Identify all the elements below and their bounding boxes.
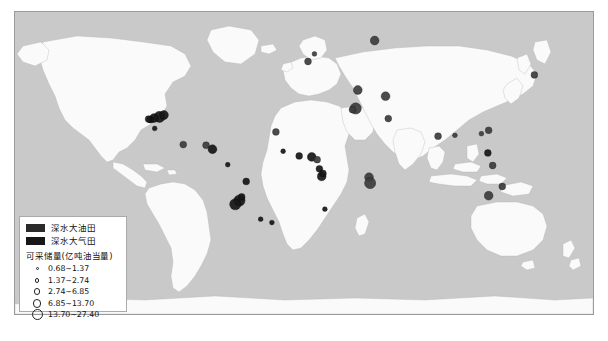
deepwater-field-point xyxy=(435,133,442,140)
reserve-class-row: 2.74~6.85 xyxy=(26,286,120,298)
reserve-class-row: 6.85~13.70 xyxy=(26,298,120,310)
deepwater-field-point xyxy=(484,191,493,200)
legend-row-gas: 深水大气田 xyxy=(26,235,120,247)
deepwater-field-point xyxy=(489,162,496,169)
reserve-class-label: 0.68~1.37 xyxy=(48,264,89,273)
deepwater-field-point xyxy=(258,217,263,222)
deepwater-field-point xyxy=(145,116,152,123)
deepwater-field-point xyxy=(365,178,376,189)
deepwater-field-point xyxy=(312,52,317,57)
map-legend: 深水大油田 深水大气田 可采储量(亿吨油当量) 0.68~1.371.37~2.… xyxy=(19,216,127,312)
deepwater-field-point xyxy=(385,115,392,122)
deepwater-field-point xyxy=(238,193,245,200)
deepwater-field-point xyxy=(322,207,327,212)
deepwater-field-point xyxy=(269,220,274,225)
deepwater-field-point xyxy=(273,129,280,136)
reserve-class-row: 1.37~2.74 xyxy=(26,275,120,287)
deepwater-field-point xyxy=(314,156,321,163)
reserve-class-circle xyxy=(36,267,39,270)
deepwater-field-point xyxy=(320,170,327,177)
deepwater-field-point xyxy=(370,36,379,45)
deepwater-field-point xyxy=(296,153,303,160)
deepwater-field-point xyxy=(499,183,506,190)
deepwater-field-point xyxy=(484,150,491,157)
reserve-class-circle xyxy=(33,299,42,308)
reserve-class-row: 0.68~1.37 xyxy=(26,263,120,275)
figure-container: 深水大油田 深水大气田 可采储量(亿吨油当量) 0.68~1.371.37~2.… xyxy=(0,0,608,341)
legend-row-oil: 深水大油田 xyxy=(26,222,120,234)
deepwater-field-point xyxy=(305,58,312,65)
reserve-class-label: 2.74~6.85 xyxy=(48,287,89,296)
deepwater-field-point xyxy=(485,127,492,134)
reserve-class-symbol xyxy=(26,288,48,295)
deepwater-field-point xyxy=(230,199,241,210)
reserve-class-row: 13.70~27.40 xyxy=(26,309,120,321)
reserve-class-circle xyxy=(34,288,41,295)
deepwater-field-point xyxy=(479,131,484,136)
reserve-class-circle xyxy=(32,309,43,320)
reserve-class-symbol xyxy=(26,309,48,320)
deepwater-field-point xyxy=(208,145,217,154)
deepwater-field-point xyxy=(281,149,286,154)
reserve-class-symbol xyxy=(26,299,48,308)
reserve-scale-title: 可采储量(亿吨油当量) xyxy=(26,249,120,261)
oil-field-swatch xyxy=(26,224,45,232)
reserve-class-symbol xyxy=(26,267,48,270)
gas-field-label: 深水大气田 xyxy=(51,236,96,246)
deepwater-field-point xyxy=(243,178,250,185)
reserve-class-symbol xyxy=(26,278,48,283)
reserve-class-circle xyxy=(35,278,40,283)
deepwater-field-point xyxy=(453,133,458,138)
deepwater-field-point xyxy=(180,141,187,148)
reserve-class-label: 13.70~27.40 xyxy=(48,310,99,319)
deepwater-field-point xyxy=(349,106,356,113)
deepwater-field-point xyxy=(152,126,157,131)
deepwater-field-point xyxy=(353,86,362,95)
deepwater-field-point xyxy=(160,111,169,120)
deepwater-field-point xyxy=(531,72,538,79)
reserve-class-label: 1.37~2.74 xyxy=(48,276,89,285)
reserve-class-label: 6.85~13.70 xyxy=(48,299,94,308)
gas-field-swatch xyxy=(26,237,45,245)
oil-field-label: 深水大油田 xyxy=(51,223,96,233)
deepwater-field-point xyxy=(381,92,390,101)
reserve-size-classes: 0.68~1.371.37~2.742.74~6.856.85~13.7013.… xyxy=(26,263,120,321)
deepwater-field-point xyxy=(225,162,230,167)
